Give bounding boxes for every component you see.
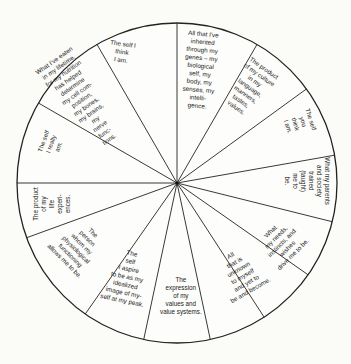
segment-life-experiences: The product of my life experi- ences. <box>32 187 72 221</box>
segment-inherited: All that I've inherited through my genes… <box>180 29 219 112</box>
wheel-hub <box>175 181 178 184</box>
segment-self-i-think: The self I think I am. <box>107 38 136 65</box>
segment-parents-society: What my parents and society trained (tau… <box>283 157 331 205</box>
segment-values: The expression of my values and value sy… <box>160 276 202 316</box>
